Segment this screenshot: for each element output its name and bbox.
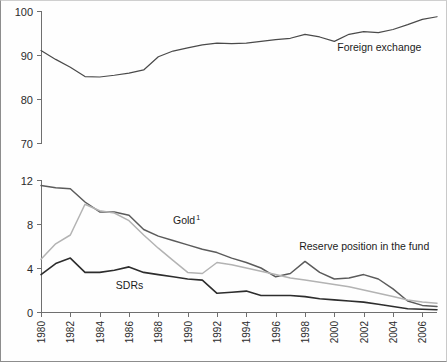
series-footnote-gold: 1 [196,214,200,221]
y-tick-label: 80 [21,94,33,106]
y-tick-label: 4 [27,263,33,275]
x-tick-label: 2002 [359,321,370,344]
figure-stage: 708090100Foreign exchange048121980198219… [0,0,447,362]
series-label-sdrs: SDRs [116,279,143,291]
y-tick-label: 70 [21,138,33,150]
x-tick-label: 1988 [153,321,164,344]
panel-top-panel: 708090100Foreign exchange [15,6,437,150]
y-tick-label: 0 [27,307,33,319]
reserves-composition-figure: 708090100Foreign exchange048121980198219… [0,0,447,362]
x-tick-label: 1982 [65,321,76,344]
y-tick-label: 12 [21,175,33,187]
series-label-foreign-exchange: Foreign exchange [337,41,421,53]
x-tick-label: 2006 [417,321,428,344]
x-tick-label: 1992 [212,321,223,344]
x-tick-label: 1998 [300,321,311,344]
y-tick-label: 8 [27,219,33,231]
y-tick-label: 100 [15,6,33,18]
series-line-gold [41,204,437,303]
y-tick-label: 90 [21,50,33,62]
series-label-reserve-position-in-the-fund: Reserve position in the fund [299,240,429,252]
x-tick-label: 2000 [329,321,340,344]
x-tick-label: 1980 [36,321,47,344]
x-tick-label: 1990 [183,321,194,344]
x-tick-label: 1986 [124,321,135,344]
x-tick-label: 2004 [388,321,399,344]
panel-bottom-panel: 0481219801982198419861988199019921994199… [21,175,437,344]
series-label-gold: Gold [173,214,195,226]
x-tick-label: 1984 [95,321,106,344]
x-tick-label: 1994 [241,321,252,344]
x-tick-label: 1996 [271,321,282,344]
